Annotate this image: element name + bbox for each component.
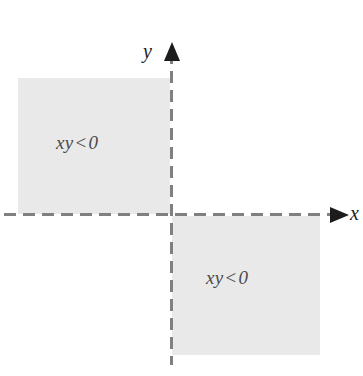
region-label-quadrant-ii: xy<0 (56, 132, 98, 154)
region-iv-operator: < (225, 267, 236, 288)
y-axis-dashed-line (170, 52, 173, 365)
y-axis-label: y (143, 40, 152, 63)
xy-inequality-diagram: y x xy<0 xy<0 (0, 0, 363, 376)
x-axis-arrow-icon (330, 207, 349, 223)
region-ii-value: 0 (88, 132, 98, 153)
region-ii-expression: xy (56, 132, 73, 153)
region-iv-value: 0 (238, 267, 248, 288)
region-ii-operator: < (75, 132, 86, 153)
region-label-quadrant-iv: xy<0 (206, 267, 248, 289)
y-axis-arrow-icon (164, 42, 180, 61)
x-axis-label: x (350, 202, 359, 225)
x-axis-dashed-line (4, 213, 342, 216)
region-iv-expression: xy (206, 267, 223, 288)
